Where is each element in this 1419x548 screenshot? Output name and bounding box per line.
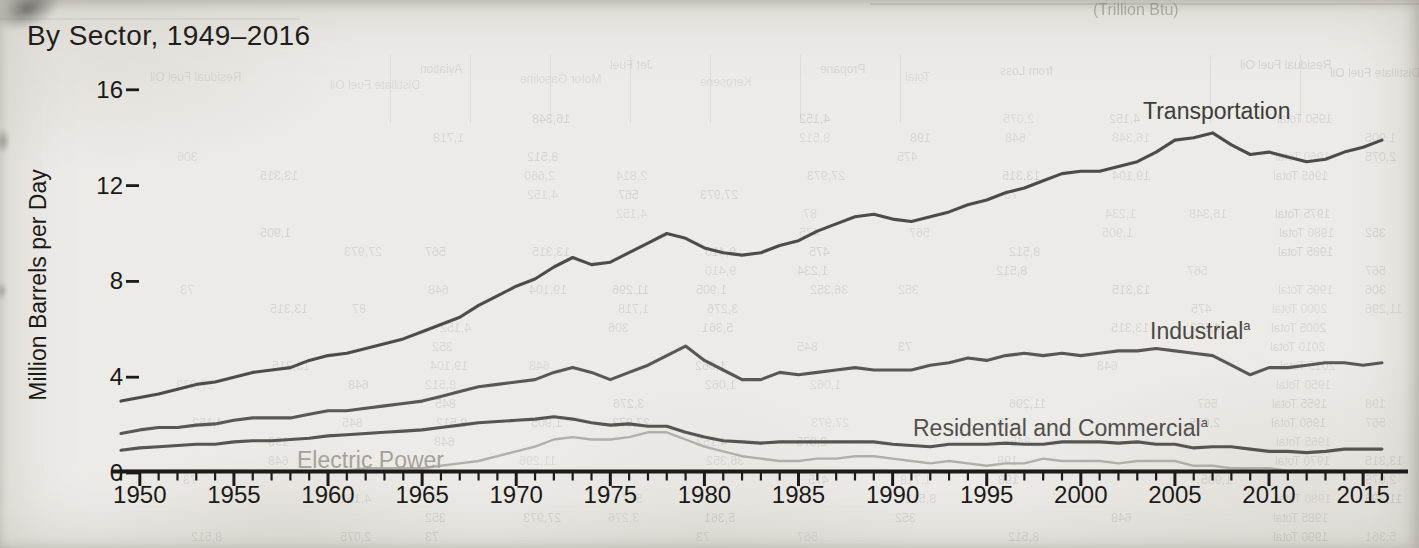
y-axis-tick-label: 4 bbox=[110, 363, 123, 390]
x-axis-tick-label: 2015 bbox=[1336, 481, 1389, 508]
x-axis-tick-label: 2000 bbox=[1054, 481, 1107, 508]
y-axis-tick-label: 8 bbox=[110, 267, 123, 294]
x-axis-tick-label: 1990 bbox=[866, 481, 919, 508]
x-axis-tick-label: 1995 bbox=[960, 481, 1013, 508]
x-axis-tick-label: 1970 bbox=[490, 481, 543, 508]
series-line-residential-and-commercial bbox=[121, 417, 1382, 453]
scanned-page: (Trillion Btu)Residual Fuel OilDistillat… bbox=[0, 0, 1419, 548]
chart-title: By Sector, 1949–2016 bbox=[27, 20, 311, 52]
x-axis-tick-label: 2010 bbox=[1242, 481, 1295, 508]
series-line-transportation bbox=[121, 133, 1382, 401]
x-axis-tick-label: 1980 bbox=[678, 481, 731, 508]
x-axis-tick-label: 1955 bbox=[207, 481, 260, 508]
x-axis-tick-label: 1985 bbox=[772, 481, 825, 508]
x-axis-tick-label: 1965 bbox=[395, 481, 448, 508]
y-axis-tick-label: 16 bbox=[96, 76, 123, 103]
x-axis-tick-label: 1960 bbox=[301, 481, 354, 508]
x-axis-tick-label: 1975 bbox=[584, 481, 637, 508]
y-axis-tick-label: 12 bbox=[96, 172, 123, 199]
x-axis-tick-label: 2005 bbox=[1148, 481, 1201, 508]
petroleum-consumption-by-sector-chart: 1950195519601965197019751980198519901995… bbox=[0, 0, 1419, 548]
y-axis-title: Million Barrels per Day bbox=[25, 169, 52, 400]
y-axis-tick-label: 0 bbox=[110, 459, 123, 486]
